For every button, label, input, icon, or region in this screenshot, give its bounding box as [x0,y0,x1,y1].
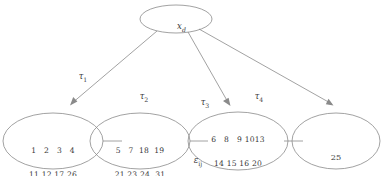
root-node-ellipse[interactable] [140,5,212,33]
leaf-node-1-ellipse[interactable] [3,113,103,169]
leaf-node-4-ellipse[interactable] [292,113,380,169]
edge-arrow-tau-4 [199,29,334,106]
edge-arrow-tau-1 [70,31,157,106]
diagram-canvas: xd τ1 τ2 τ3 τ4 1 2 3 4 11 12 17 26 5 7 1… [0,0,382,176]
diagram-svg [0,0,382,176]
